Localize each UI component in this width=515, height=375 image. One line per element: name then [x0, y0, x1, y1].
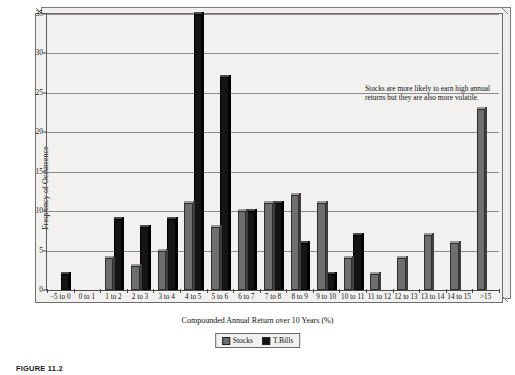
y-axis-tick-label: 30 [36, 50, 44, 58]
x-axis-tick-mark [47, 289, 48, 293]
chart-annotation: Stocks are more likely to earn high annu… [365, 84, 490, 102]
x-axis-tick-mark [260, 289, 261, 293]
x-axis-tick-mark [127, 289, 128, 293]
bar-stocks-14 [424, 235, 433, 290]
bar-stocks-10 [317, 203, 326, 290]
x-axis-tick-mark [499, 289, 500, 293]
tbills-swatch-icon [262, 337, 270, 345]
bar-stocks-13 [397, 258, 406, 290]
bar-stocks-15 [450, 243, 459, 290]
x-axis-tick-mark [153, 289, 154, 293]
chart-legend: Stocks T.Bills [215, 333, 301, 348]
y-axis-tick-label: 20 [36, 129, 44, 137]
legend-item-tbills: T.Bills [262, 336, 293, 345]
x-axis-tick-mark [446, 289, 447, 293]
x-axis-tick-mark [419, 289, 420, 293]
figure-caption: FIGURE 11.2 [16, 364, 63, 373]
x-axis-title: Compounded Annual Return over 10 Years (… [0, 316, 515, 325]
bar-stocks-4 [158, 251, 167, 290]
bar-stocks-16 [477, 109, 486, 290]
figure-container: Frequency of Occurrence 05101520253035 −… [0, 0, 515, 375]
y-axis-tick-label: 10 [36, 207, 44, 215]
bar-stocks-8 [264, 203, 273, 290]
stocks-swatch-icon [222, 337, 230, 345]
legend-label-tbills: T.Bills [273, 336, 293, 345]
y-axis-tick-label: 25 [36, 89, 44, 97]
bar-stocks-11 [344, 258, 353, 290]
legend-item-stocks: Stocks [222, 336, 253, 345]
bar-stocks-12 [370, 274, 379, 290]
plot-area: 05101520253035 [47, 14, 499, 290]
x-axis-tick-label: >15 [470, 293, 501, 301]
x-axis-tick-mark [233, 289, 234, 293]
x-axis-tick-mark [393, 289, 394, 293]
bar-stocks-5 [184, 203, 193, 290]
x-axis-tick-mark [74, 289, 75, 293]
x-axis-tick-mark [180, 289, 181, 293]
x-axis-line [47, 290, 499, 291]
bar-stocks-2 [105, 258, 114, 290]
bar-stocks-3 [131, 266, 140, 290]
x-axis-tick-mark [100, 289, 101, 293]
bar-stocks-6 [211, 227, 220, 290]
x-axis-tick-mark [339, 289, 340, 293]
bar-tbills-0 [61, 274, 70, 290]
y-axis-tick-label: 15 [36, 168, 44, 176]
bar-series-container [47, 14, 499, 290]
y-axis-tick-label: 35 [36, 10, 44, 18]
x-axis-tick-mark [472, 289, 473, 293]
x-axis-tick-mark [286, 289, 287, 293]
x-axis-tick-mark [313, 289, 314, 293]
legend-label-stocks: Stocks [233, 336, 253, 345]
bar-stocks-9 [291, 195, 300, 290]
x-axis-tick-mark [207, 289, 208, 293]
bar-stocks-7 [238, 211, 247, 290]
x-axis-tick-mark [366, 289, 367, 293]
